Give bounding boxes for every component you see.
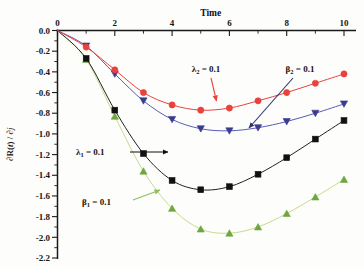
x-tick-label: 8: [284, 18, 289, 28]
y-tick-label: -0.4: [36, 67, 51, 77]
x-tick-label: 2: [113, 18, 118, 28]
data-point-marker: [341, 118, 347, 124]
x-tick-label: 10: [340, 18, 350, 28]
annotation-label-beta1: β1 = 0.1: [82, 197, 111, 208]
data-point-marker: [284, 155, 290, 161]
data-point-marker: [341, 71, 347, 77]
data-point-marker: [226, 105, 232, 111]
x-tick-label: 0: [55, 18, 60, 28]
data-point-marker: [83, 56, 89, 62]
data-point-marker: [198, 107, 204, 113]
y-axis-title: ∂R(t) / ∂j: [5, 127, 15, 161]
data-point-marker: [140, 89, 146, 95]
data-point-marker: [284, 89, 290, 95]
y-tick-label: -0.2: [36, 46, 51, 56]
y-tick-label: 0.0: [39, 26, 51, 36]
y-tick-label: -1.2: [36, 150, 51, 160]
x-axis-title: Time: [200, 8, 221, 18]
annotation-label-lambda2: λ2 = 0.1: [192, 64, 221, 75]
y-tick-label: -1.4: [36, 170, 51, 180]
y-tick-label: -0.8: [36, 108, 51, 118]
y-tick-label: -1.0: [36, 129, 51, 139]
data-point-marker: [83, 44, 89, 50]
y-tick-label: -0.6: [36, 88, 51, 98]
data-point-marker: [312, 80, 318, 86]
data-point-marker: [169, 178, 175, 184]
annotation-label-beta2: β2 = 0.1: [286, 64, 315, 75]
data-point-marker: [112, 67, 118, 73]
y-tick-label: -1.8: [36, 212, 51, 222]
data-point-marker: [227, 184, 233, 190]
data-point-marker: [169, 102, 175, 108]
chart-figure: 0246810 0.0-0.2-0.4-0.6-0.8-1.0-1.2-1.4-…: [0, 0, 364, 268]
y-tick-label: -1.6: [36, 191, 51, 201]
data-point-marker: [255, 98, 261, 104]
x-tick-label: 4: [170, 18, 175, 28]
x-tick-label: 6: [227, 18, 232, 28]
y-tick-label: -2.0: [36, 233, 51, 243]
y-axis-title-text: ∂R(t) / ∂j: [5, 127, 15, 161]
data-point-marker: [112, 107, 118, 113]
data-point-marker: [198, 187, 204, 193]
data-point-marker: [312, 136, 318, 142]
annotation-label-lambda1: λ1 = 0.1: [76, 147, 105, 158]
data-point-marker: [255, 171, 261, 177]
chart-canvas: 0246810 0.0-0.2-0.4-0.6-0.8-1.0-1.2-1.4-…: [0, 0, 364, 268]
y-tick-label: -2.2: [36, 253, 51, 263]
